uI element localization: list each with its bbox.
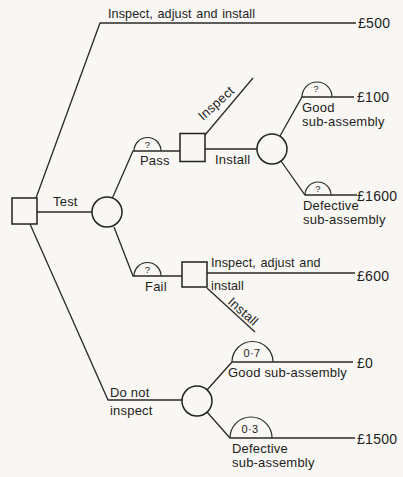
noinspect-good-label: Good sub-assembly [228, 365, 347, 380]
decision-tree-diagram: Inspect, adjust and install £500 Test Do… [0, 0, 403, 477]
pass-decision-node [180, 134, 205, 162]
no-inspect-chance-node [182, 386, 212, 416]
install-chance-node [257, 134, 287, 164]
noinspect-good-probability-value: 0·7 [244, 347, 261, 359]
pass-probability-value: ? [145, 139, 150, 150]
branch-pass-label: Pass [140, 153, 170, 168]
noinspect-defective-label-line2: sub-assembly [232, 455, 315, 470]
fail-inspect-adjust-install-label-line2: install [211, 279, 244, 293]
branch-fail-label: Fail [145, 279, 167, 294]
branch-do-not-inspect-label-line2: inspect [110, 403, 153, 418]
defective-subassembly-label-line2: sub-assembly [303, 212, 386, 227]
payoff-good-subassembly: £100 [357, 89, 389, 105]
good-probability-value: ? [313, 83, 318, 94]
branch-pass-inspect-label: Inspect [195, 83, 237, 123]
branch-do-not-inspect-label-line1: Do not [110, 385, 150, 400]
payoff-inspect-adjust-install: £500 [358, 15, 390, 31]
branch-inspect-adjust-install-label: Inspect, adjust and install [108, 7, 255, 21]
test-chance-node [92, 197, 122, 227]
payoff-noinspect-defective: £1500 [357, 431, 397, 447]
branch-fail-install-label: Install [225, 294, 261, 329]
defective-probability-value: ? [315, 183, 320, 194]
branch-test-label: Test [53, 194, 78, 209]
good-subassembly-label-line1: Good [302, 100, 335, 115]
noinspect-defective-label-line1: Defective [232, 441, 288, 456]
payoff-defective-subassembly: £1600 [357, 188, 397, 204]
fail-decision-node [182, 262, 207, 287]
payoff-fail-inspect-adjust-install: £600 [357, 268, 389, 284]
branch-noinspect-defective-line [207, 412, 355, 438]
branch-pass-install-label: Install [215, 152, 250, 167]
decision-tree-canvas: Inspect, adjust and install £500 Test Do… [0, 0, 403, 477]
branch-do-not-inspect-line [30, 224, 182, 400]
noinspect-defective-probability-value: 0·3 [242, 423, 259, 435]
root-decision-node [12, 198, 37, 224]
fail-probability-value: ? [145, 264, 150, 275]
good-subassembly-label-line2: sub-assembly [302, 114, 385, 129]
payoff-noinspect-good: £0 [357, 355, 373, 371]
fail-inspect-adjust-install-label-line1: Inspect, adjust and [211, 256, 321, 270]
defective-subassembly-label-line1: Defective [303, 198, 359, 213]
